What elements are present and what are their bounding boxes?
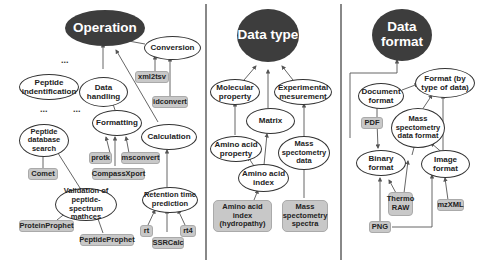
node-amino-acid-index: Amino acid index [238,164,289,192]
node-amino-acid-property: Amino acid property [210,136,262,162]
root-operation: Operation [65,10,145,46]
node-conversion: Conversion [144,36,201,60]
node-format-by-type: Format (by type of data) [415,68,475,98]
node-retention-time-prediction: Retention time prediction [142,187,198,213]
tool-rt: rt [140,225,153,237]
node-image-format: Image format [421,150,470,178]
tool-mzxml: mzXML [437,199,464,211]
tool-thermo-raw: Thermo RAW [388,192,413,216]
tool-msconvert: msconvert [121,152,160,164]
tool-rt4: rt4 [180,225,196,237]
tool-idconvert: idconvert [152,96,188,108]
node-binary-format: Binary format [356,150,406,176]
node-validation: Validation of peptide-spectrum mathces [55,188,117,221]
divider-left [205,4,207,260]
tool-png: PNG [369,221,391,233]
tool-ms-spectra: Mass spectometry spectra [282,200,328,232]
ellipsis-3: ... [73,104,81,114]
node-peptide-identification: Peptide indentification [19,74,79,100]
node-ms-data-format: Mass spectometry data format [391,108,445,148]
node-experimental-measurement: Experimental mesurement [274,79,332,105]
tool-comet: Comet [28,168,58,180]
tool-proteinprophet: ProteinProphet [19,220,74,232]
tool-ssrcalc: SSRCalc [152,237,184,249]
tool-xml2tsv: xml2tsv [135,71,169,83]
tool-protk: protk [89,152,112,164]
node-calculation: Calculation [141,124,197,150]
node-ms-data: Mass spectometry data [278,136,330,170]
ellipsis-1: ... [61,55,69,65]
root-data-format: Data format [372,9,432,61]
divider-right [340,4,342,260]
node-data-handling: Data handling [79,77,128,107]
node-formatting: Formatting [92,110,142,136]
tool-pdf: PDF [361,117,383,129]
root-data-type: Data type [237,9,299,62]
node-document-format: Document format [358,83,404,109]
ellipsis-2: ... [40,104,48,114]
tool-aa-index-hydropathy: Amino acid index (hydropathy) [213,200,272,232]
node-molecular-property: Molecular property [210,79,260,105]
tool-compassxport: CompassXport [92,168,145,180]
node-matrix: Matrix [246,108,295,134]
tool-peptideprophet: PeptideProphet [80,234,134,246]
node-peptide-database-search: Peptide database search [19,124,69,157]
